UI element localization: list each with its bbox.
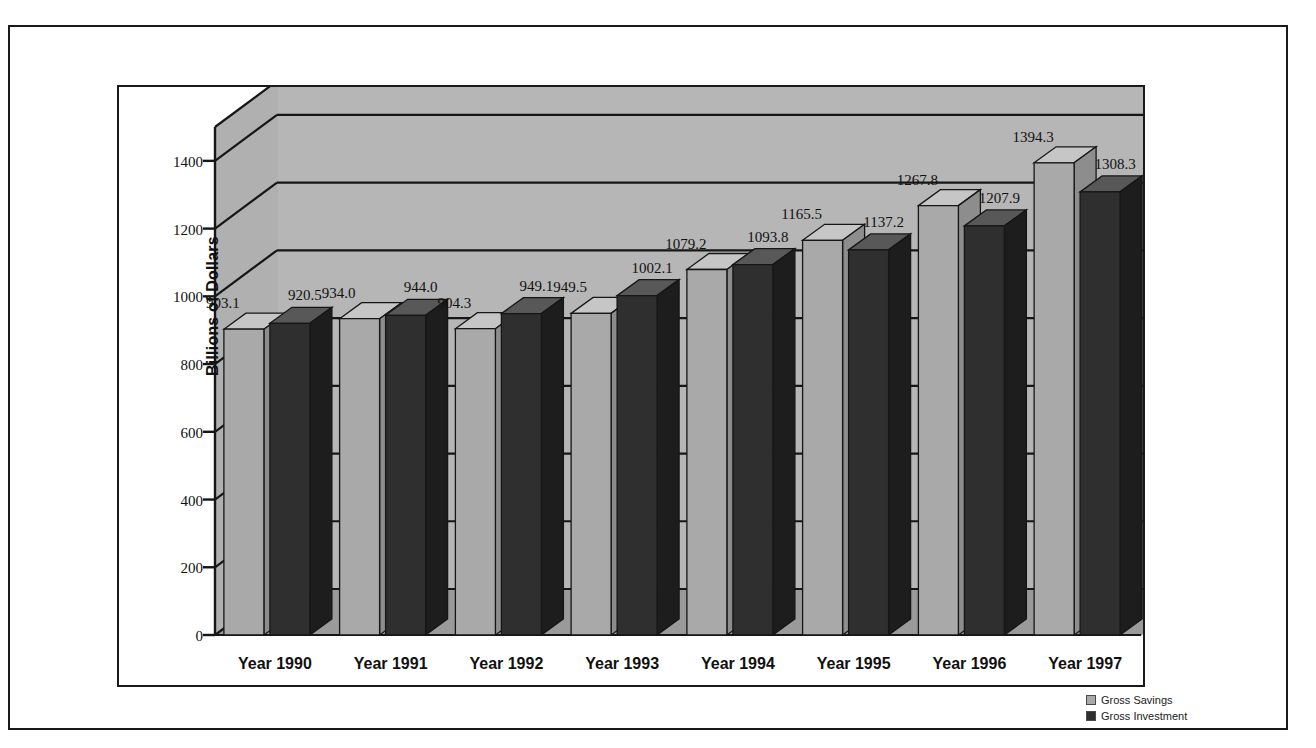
- chart-svg: [119, 87, 1143, 685]
- value-label-1-0: 934.0: [309, 285, 369, 302]
- bar-side-gross-investment-3[interactable]: [657, 280, 679, 635]
- bar-front-gross-investment-7[interactable]: [1080, 192, 1120, 635]
- bar-front-gross-investment-1[interactable]: [386, 315, 426, 635]
- value-label-7-1: 1308.3: [1085, 156, 1145, 173]
- bar-front-gross-savings-1[interactable]: [340, 319, 380, 635]
- chart-page: Billions of Dollars 02004006008001000120…: [0, 0, 1316, 748]
- value-label-7-0: 1394.3: [1003, 129, 1063, 146]
- value-label-4-1: 1093.8: [738, 229, 798, 246]
- y-tick-label-800: 800: [141, 357, 203, 374]
- value-label-1-1: 944.0: [391, 279, 451, 296]
- bar-side-gross-investment-6[interactable]: [1004, 210, 1026, 635]
- bar-side-gross-investment-4[interactable]: [773, 249, 795, 635]
- bar-front-gross-investment-5[interactable]: [849, 250, 889, 635]
- bar-front-gross-savings-6[interactable]: [918, 206, 958, 635]
- bar-front-gross-investment-6[interactable]: [964, 226, 1004, 635]
- bar-front-gross-investment-2[interactable]: [501, 314, 541, 635]
- bar-side-gross-investment-5[interactable]: [889, 234, 911, 635]
- legend-item-gross-savings[interactable]: Gross Savings: [1086, 693, 1276, 707]
- y-tick-label-1400: 1400: [141, 154, 203, 171]
- y-tick-label-200: 200: [141, 560, 203, 577]
- bar-side-gross-investment-1[interactable]: [426, 299, 448, 635]
- page-outer-border: Billions of Dollars 02004006008001000120…: [8, 25, 1288, 730]
- bar-side-gross-investment-0[interactable]: [310, 307, 332, 635]
- bar-front-gross-savings-7[interactable]: [1034, 163, 1074, 635]
- value-label-3-0: 949.5: [540, 279, 600, 296]
- x-axis-label-year-1997: Year 1997: [1015, 655, 1155, 673]
- bar-front-gross-savings-3[interactable]: [571, 313, 611, 635]
- value-label-5-0: 1165.5: [772, 206, 832, 223]
- value-label-5-1: 1137.2: [854, 214, 914, 231]
- bar-front-gross-savings-0[interactable]: [224, 329, 264, 635]
- y-tick-label-400: 400: [141, 493, 203, 510]
- bar-front-gross-savings-4[interactable]: [687, 270, 727, 636]
- y-tick-label-0: 0: [141, 628, 203, 645]
- plot-area-3d: [119, 87, 1143, 685]
- bar-front-gross-investment-4[interactable]: [733, 265, 773, 635]
- y-tick-label-1200: 1200: [141, 222, 203, 239]
- bar-front-gross-savings-2[interactable]: [455, 329, 495, 635]
- bar-front-gross-investment-3[interactable]: [617, 296, 657, 635]
- value-label-6-1: 1207.9: [969, 190, 1029, 207]
- bar-front-gross-investment-0[interactable]: [270, 323, 310, 635]
- bar-side-gross-investment-2[interactable]: [541, 298, 563, 635]
- chart-legend: Gross SavingsGross Investment: [1086, 693, 1276, 725]
- value-label-6-0: 1267.8: [887, 172, 947, 189]
- value-label-4-0: 1079.2: [656, 236, 716, 253]
- value-label-2-0: 904.3: [424, 295, 484, 312]
- legend-swatch-icon-0: [1086, 695, 1096, 705]
- legend-swatch-icon-1: [1086, 711, 1096, 721]
- bar-side-gross-investment-7[interactable]: [1120, 176, 1142, 635]
- legend-label-0: Gross Savings: [1101, 694, 1173, 706]
- value-label-0-0: 903.1: [193, 295, 253, 312]
- legend-label-1: Gross Investment: [1101, 710, 1187, 722]
- chart-frame: Billions of Dollars 02004006008001000120…: [117, 85, 1145, 687]
- legend-item-gross-investment[interactable]: Gross Investment: [1086, 709, 1276, 723]
- y-tick-label-600: 600: [141, 425, 203, 442]
- value-label-3-1: 1002.1: [622, 260, 682, 277]
- bar-front-gross-savings-5[interactable]: [803, 240, 843, 635]
